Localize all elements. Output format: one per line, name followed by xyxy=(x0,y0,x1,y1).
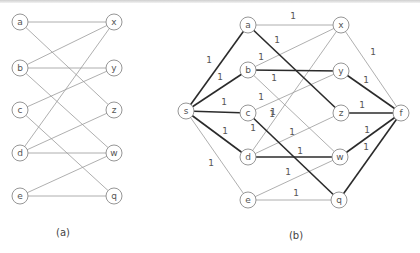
node-label: s xyxy=(184,106,189,116)
node-w: w xyxy=(106,145,122,161)
node-label: y xyxy=(338,66,344,76)
weight-label-s-e: 1 xyxy=(208,158,214,168)
caption-a: (a) xyxy=(56,227,70,238)
node-label: q xyxy=(336,195,342,205)
node-z: z xyxy=(106,102,122,118)
node-c: c xyxy=(12,102,28,118)
edge-b-w xyxy=(248,70,340,157)
node-label: b xyxy=(245,65,251,75)
weight-label-z-f: 1 xyxy=(359,100,365,110)
weight-label-c-q: 1 xyxy=(250,123,256,133)
weight-label-a-x: 1 xyxy=(290,11,296,21)
edge-d-x xyxy=(248,25,341,157)
edge-e-w xyxy=(20,153,114,196)
node-d: d xyxy=(12,145,28,161)
edge-b-x xyxy=(248,25,341,70)
node-label: c xyxy=(18,105,23,115)
node-q: q xyxy=(106,188,122,204)
node-q: q xyxy=(331,192,347,208)
weight-label-a-z: 1 xyxy=(274,35,280,45)
edge-s-c xyxy=(186,111,248,113)
graph-b-edges xyxy=(186,25,401,200)
node-label: e xyxy=(245,195,251,205)
edge-d-z xyxy=(20,110,114,153)
node-s: s xyxy=(178,103,194,119)
edge-s-e xyxy=(186,111,248,200)
node-y: y xyxy=(333,63,349,79)
edge-w-f xyxy=(340,113,401,157)
edge-b-w xyxy=(20,68,114,153)
node-b: b xyxy=(240,62,256,78)
node-e: e xyxy=(240,192,256,208)
edge-d-x xyxy=(20,22,114,153)
node-x: x xyxy=(333,17,349,33)
weight-label-e-w: 1 xyxy=(285,167,291,177)
node-label: a xyxy=(17,17,23,27)
weight-label-d-z: 1 xyxy=(289,127,295,137)
node-label: c xyxy=(246,108,251,118)
node-a: a xyxy=(12,14,28,30)
weight-label-s-d: 1 xyxy=(222,126,228,136)
graph-a-nodes: abcdexyzwq xyxy=(12,14,122,204)
edge-a-z xyxy=(20,22,114,110)
node-w: w xyxy=(332,149,348,165)
weight-label-b-x: 1 xyxy=(258,52,264,62)
node-label: d xyxy=(17,148,23,158)
weight-label-b-y: 1 xyxy=(271,73,277,83)
node-label: z xyxy=(339,108,344,118)
edge-b-y xyxy=(248,70,341,71)
weight-label-e-q: 1 xyxy=(293,188,299,198)
node-y: y xyxy=(106,60,122,76)
edge-y-f xyxy=(341,71,401,113)
node-b: b xyxy=(12,60,28,76)
graph-a-edges xyxy=(20,22,114,196)
node-label: q xyxy=(111,191,117,201)
node-d: d xyxy=(240,149,256,165)
weight-label-q-f: 1 xyxy=(363,142,369,152)
node-label: e xyxy=(17,191,23,201)
edge-s-d xyxy=(186,111,248,157)
weight-label-s-a: 1 xyxy=(206,55,212,65)
bipartite-graph-figure: abcdexyzwq 1111111111111111111111 sabcde… xyxy=(0,0,420,253)
node-label: a xyxy=(245,20,251,30)
edge-s-a xyxy=(186,25,248,111)
node-label: y xyxy=(111,63,117,73)
node-label: w xyxy=(110,148,117,158)
node-a: a xyxy=(240,17,256,33)
weight-label-y-f: 1 xyxy=(363,75,369,85)
weight-label-w-f: 1 xyxy=(364,125,370,135)
node-c: c xyxy=(240,105,256,121)
node-label: x xyxy=(338,20,344,30)
edge-b-x xyxy=(20,22,114,68)
weight-label-s-b: 1 xyxy=(217,72,223,82)
node-x: x xyxy=(106,14,122,30)
node-label: w xyxy=(336,152,343,162)
weight-label-c-y: 1 xyxy=(258,92,264,102)
caption-b: (b) xyxy=(289,230,303,241)
weight-label-d-x: 1 xyxy=(269,109,275,119)
weight-label-d-w: 1 xyxy=(297,146,303,156)
node-f: f xyxy=(393,105,409,121)
node-label: d xyxy=(245,152,251,162)
weight-label-s-c: 1 xyxy=(221,97,227,107)
node-label: x xyxy=(111,17,117,27)
edge-c-y xyxy=(20,68,114,110)
weight-label-x-f: 1 xyxy=(370,47,376,57)
node-label: z xyxy=(112,105,117,115)
edge-x-f xyxy=(341,25,401,113)
node-z: z xyxy=(333,105,349,121)
node-e: e xyxy=(12,188,28,204)
node-label: b xyxy=(17,63,23,73)
